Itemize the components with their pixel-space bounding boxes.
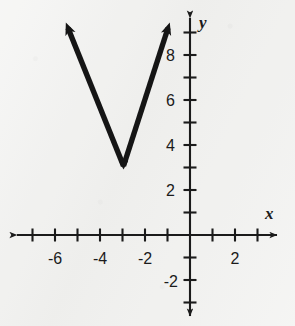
axes-group: [17, 18, 277, 316]
graph-figure: -6 -4 -2 2 8 6 4 2 -2 y x: [0, 0, 295, 326]
x-tick-label--4: -4: [93, 250, 107, 267]
x-axis-label: x: [264, 204, 274, 223]
y-tick-label-6: 6: [166, 92, 175, 109]
y-tick-label-2: 2: [166, 182, 175, 199]
curve-vertex: [119, 161, 128, 170]
y-axis-label: y: [197, 13, 207, 32]
curve-left-branch: [68, 28, 124, 166]
absolute-value-curve: [68, 28, 168, 170]
y-tick-label--2: -2: [164, 273, 178, 290]
coordinate-plane-plot: -6 -4 -2 2 8 6 4 2 -2 y x: [0, 0, 295, 326]
x-tick-labels: -6 -4 -2 2: [48, 250, 240, 267]
curve-right-branch: [124, 28, 169, 166]
x-tick-label-2: 2: [231, 250, 240, 267]
y-tick-label-8: 8: [166, 47, 175, 64]
y-tick-labels: 8 6 4 2 -2: [164, 47, 178, 290]
y-tick-label-4: 4: [166, 137, 175, 154]
x-tick-label--6: -6: [48, 250, 62, 267]
x-tick-label--2: -2: [138, 250, 152, 267]
